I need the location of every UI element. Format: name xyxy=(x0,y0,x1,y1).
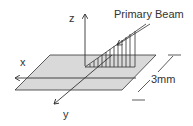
beam-label: Primary Beam xyxy=(114,8,184,20)
dimension-label: 3mm xyxy=(151,73,175,85)
beam-geometry-diagram: x y z Primary Beam 3mm xyxy=(0,0,193,126)
z-axis-label: z xyxy=(69,12,75,24)
y-axis-label: y xyxy=(63,108,69,120)
x-axis-label: x xyxy=(20,56,26,68)
beam-leader-line xyxy=(117,24,150,45)
